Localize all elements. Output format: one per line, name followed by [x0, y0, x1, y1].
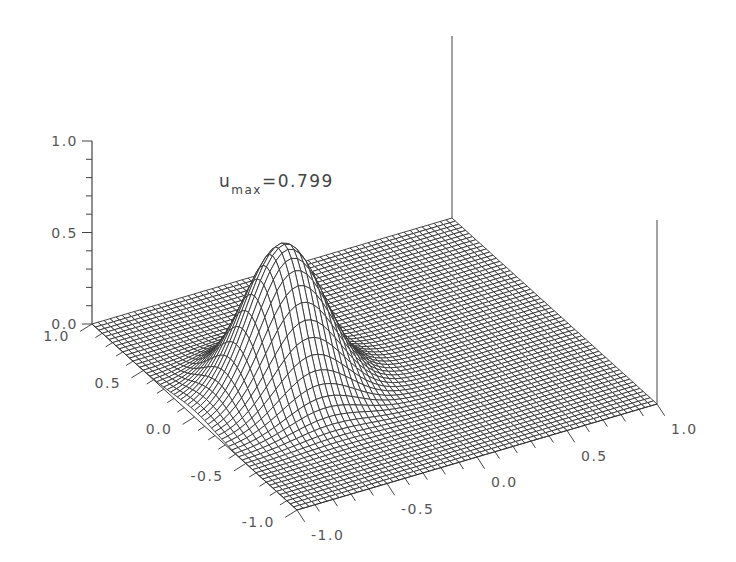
x-tick-label: -1.0: [311, 527, 344, 543]
y-tick-label: 0.0: [146, 421, 173, 437]
y-tick-label: 0.5: [94, 375, 121, 391]
y-tick-label: 1.0: [43, 328, 70, 344]
x-tick-label: 0.0: [491, 474, 518, 490]
umax-annotation: umax=0.799: [219, 171, 334, 197]
x-tick-label: -0.5: [401, 501, 434, 517]
x-tick-label: 1.0: [671, 421, 698, 437]
surface-plot: 0.00.51.0-1.0-0.50.00.51.0-1.0-0.50.00.5…: [0, 0, 736, 562]
z-tick-label: 1.0: [51, 133, 78, 149]
surface-mesh: [92, 218, 657, 510]
x-tick-label: 0.5: [581, 448, 608, 464]
y-tick-label: -1.0: [242, 514, 275, 530]
z-tick-label: 0.5: [51, 225, 78, 241]
y-tick-label: -0.5: [190, 468, 223, 484]
